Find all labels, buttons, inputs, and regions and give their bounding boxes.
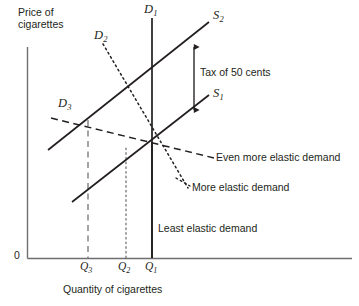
demand-curve-d1-label-subscript: 1: [153, 8, 157, 18]
quantity-tick-label-q2: Q2: [118, 260, 130, 273]
y-axis-title-line-2: cigarettes: [18, 18, 64, 30]
supply-curve-s1-label: S1: [213, 86, 224, 100]
demand-curve-d3-label: D3: [58, 96, 71, 110]
demand-curve-d1-label: D1: [144, 2, 157, 16]
supply-curve-s2-label-text: S: [213, 8, 219, 22]
demand-curve-d2: [103, 44, 188, 188]
demand-curve-d3-label-subscript: 3: [67, 102, 71, 112]
supply-curve-s2-label-subscript: 2: [220, 14, 224, 24]
supply-curve-s1-label-subscript: 1: [220, 92, 224, 102]
quantity-tick-label-q2-subscript: 2: [126, 266, 130, 275]
quantity-tick-label-q3-subscript: 3: [88, 266, 92, 275]
demand-curve-d1-label-text: D: [144, 2, 153, 16]
demand-curve-d2-label: D2: [94, 28, 107, 42]
demand-curve-d2-label-text: D: [94, 28, 103, 42]
demand-curve-d3-label-text: D: [58, 96, 67, 110]
x-axis-title: Quantity of cigarettes: [63, 283, 162, 295]
quantity-tick-label-q1: Q1: [145, 260, 157, 273]
supply-curve-s1: [72, 95, 209, 202]
origin-label: 0: [14, 249, 20, 261]
y-axis-title: Price of cigarettes: [18, 6, 64, 30]
quantity-tick-label-q1-subscript: 1: [153, 266, 157, 275]
demand-curve-d2-label-subscript: 2: [103, 34, 107, 44]
y-axis-title-line-1: Price of: [18, 6, 64, 18]
supply-curve-s1-label-text: S: [213, 86, 219, 100]
supply-curves: [48, 22, 209, 202]
more-elastic-demand-label: More elastic demand: [192, 181, 289, 193]
quantity-tick-label-q3: Q3: [80, 260, 92, 273]
demand-curve-d3: [51, 118, 214, 158]
cigarette-tax-supply-demand-figure: Price of cigarettes Quantity of cigarett…: [0, 0, 359, 306]
tax-annotation-label: Tax of 50 cents: [200, 66, 271, 78]
least-elastic-demand-label: Least elastic demand: [158, 222, 257, 234]
even-more-elastic-demand-label: Even more elastic demand: [216, 151, 340, 163]
supply-curve-s2-label: S2: [213, 8, 224, 22]
